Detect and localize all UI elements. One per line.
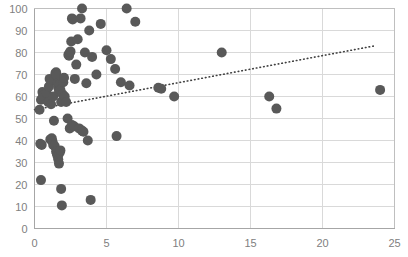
data-point	[156, 84, 166, 94]
data-point	[73, 34, 83, 44]
data-point	[76, 13, 86, 23]
data-point	[61, 97, 71, 107]
data-point	[66, 46, 76, 56]
y-tick-label: 0	[21, 223, 27, 235]
data-point	[56, 184, 66, 194]
data-point	[84, 26, 94, 36]
y-tick-label: 10	[15, 201, 27, 213]
data-point	[110, 64, 120, 74]
data-point	[37, 140, 47, 150]
data-point	[59, 73, 69, 83]
x-tick-label: 20	[316, 237, 328, 249]
x-axis-tick-labels: 0510152025	[31, 237, 400, 249]
data-point	[169, 92, 179, 102]
data-point	[125, 81, 135, 91]
data-point	[77, 4, 87, 14]
data-point	[106, 54, 116, 64]
data-point	[55, 145, 65, 155]
data-point	[86, 195, 96, 205]
data-point	[91, 70, 101, 80]
data-point	[81, 78, 91, 88]
x-tick-label: 15	[244, 237, 256, 249]
data-point	[112, 131, 122, 141]
data-point	[217, 48, 227, 58]
x-tick-label: 5	[103, 237, 109, 249]
data-point	[264, 92, 274, 102]
y-tick-label: 70	[15, 69, 27, 81]
data-point	[78, 127, 88, 137]
data-point	[71, 60, 81, 70]
scatter-chart: 01020304050607080901000510152025	[0, 0, 408, 257]
data-point	[96, 19, 106, 29]
x-tick-label: 0	[31, 237, 37, 249]
y-tick-label: 100	[9, 3, 27, 15]
data-point	[122, 4, 132, 14]
y-tick-label: 20	[15, 179, 27, 191]
chart-canvas: 01020304050607080901000510152025	[0, 0, 408, 257]
data-point	[83, 136, 93, 146]
y-tick-label: 40	[15, 135, 27, 147]
y-tick-label: 60	[15, 91, 27, 103]
data-point	[35, 105, 45, 115]
data-point	[102, 45, 112, 55]
y-tick-label: 50	[15, 113, 27, 125]
data-points	[35, 4, 386, 211]
data-point	[87, 52, 97, 62]
x-tick-label: 10	[172, 237, 184, 249]
data-point	[130, 17, 140, 27]
data-point	[36, 175, 46, 185]
data-point	[49, 116, 59, 126]
data-point	[57, 200, 67, 210]
data-point	[70, 74, 80, 84]
data-point	[54, 159, 64, 169]
data-point	[116, 77, 126, 87]
x-tick-label: 25	[388, 237, 400, 249]
data-point	[375, 85, 385, 95]
y-axis-tick-labels: 0102030405060708090100	[9, 3, 27, 235]
y-tick-label: 80	[15, 47, 27, 59]
y-tick-label: 30	[15, 157, 27, 169]
y-tick-label: 90	[15, 25, 27, 37]
data-point	[271, 104, 281, 114]
